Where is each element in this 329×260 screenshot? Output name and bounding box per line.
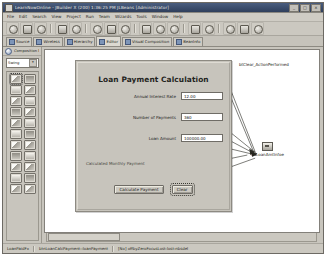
palette-group-dropdown[interactable]: Swing ▾ <box>6 58 39 68</box>
scrollbar-thumb[interactable] <box>48 233 120 241</box>
menu-item-help[interactable]: Help <box>173 13 183 21</box>
wireless-tab-icon <box>36 39 42 45</box>
debug-icon[interactable] <box>223 22 236 35</box>
jseparator-tool[interactable] <box>24 184 36 194</box>
save-icon[interactable] <box>34 22 47 35</box>
status-bar: LoanPaidFx btnLoanCalcPayment::loanPayme… <box>3 243 323 253</box>
menu-item-wizards[interactable]: Wizards <box>115 13 131 21</box>
menu-item-view[interactable]: View <box>52 13 62 21</box>
canvas-container: Loan Payment Calculation Annual Interest… <box>42 47 323 243</box>
loan-amount-event-label: fldLoanAmtInfoe <box>251 152 284 157</box>
editor-tab-icon <box>99 39 105 45</box>
jpanel-tool[interactable] <box>10 129 22 139</box>
number-of-payments-field[interactable]: 360 <box>181 113 223 121</box>
jlist-tool[interactable] <box>24 118 36 128</box>
jcheckbox-tool[interactable] <box>10 107 22 117</box>
jslider-tool[interactable] <box>10 173 22 183</box>
close-doc-icon[interactable] <box>69 22 82 35</box>
toolbar-separator <box>85 24 87 33</box>
minimize-button[interactable]: _ <box>289 4 299 12</box>
horizontal-scrollbar[interactable] <box>46 233 317 242</box>
tab-beaninfo[interactable]: Beanlnfo <box>173 37 203 46</box>
clear-button[interactable]: Clear <box>172 185 193 194</box>
menu-item-project[interactable]: Project <box>66 13 80 21</box>
tab-label: Wireless <box>43 38 59 46</box>
loan-amount-event-annotation[interactable]: fldLoanAmtInfoe <box>251 142 284 157</box>
open-icon[interactable] <box>20 22 33 35</box>
menu-item-team[interactable]: Team <box>99 13 110 21</box>
chevron-down-icon[interactable]: ▾ <box>29 59 37 67</box>
event-bean-icon <box>262 142 273 151</box>
hierarchy-tab-icon <box>67 39 73 45</box>
paste-icon[interactable] <box>153 22 166 35</box>
annual-interest-rate-label: Annual Interest Rate <box>134 94 176 99</box>
jspinner-tool[interactable] <box>10 184 22 194</box>
jtabbedpane-tool[interactable] <box>10 151 22 161</box>
tab-hierarchy[interactable]: Hierarchy <box>64 37 96 46</box>
jbutton-tool[interactable] <box>24 85 36 95</box>
toolbar-group-doc <box>55 22 82 35</box>
menu-item-edit[interactable]: Edit <box>19 13 27 21</box>
palette-row <box>8 129 37 139</box>
jtoolbar-tool[interactable] <box>10 162 22 172</box>
annual-interest-rate-field[interactable]: 12.00 <box>181 92 223 100</box>
tab-wireless[interactable]: Wireless <box>33 37 62 46</box>
redo-icon[interactable] <box>104 22 117 35</box>
jprogressbar-tool[interactable] <box>24 173 36 183</box>
menu-item-run[interactable]: Run <box>86 13 94 21</box>
jtextfield-tool[interactable] <box>10 96 22 106</box>
menu-item-search[interactable]: Search <box>32 13 46 21</box>
tab-source[interactable]: Source <box>6 37 32 46</box>
find-icon[interactable] <box>167 22 180 35</box>
build-icon[interactable] <box>188 22 201 35</box>
palette-row <box>8 85 37 95</box>
source-tab-icon <box>9 39 15 45</box>
close-button[interactable]: × <box>311 4 321 12</box>
toolbar-separator <box>50 24 52 33</box>
loan-amount-field[interactable]: 100000.00 <box>181 134 223 142</box>
status-separator <box>112 246 114 252</box>
loan-amount-label: Loan Amount <box>149 136 176 141</box>
menu-item-tools[interactable]: Tools <box>136 13 146 21</box>
clear-event-annotation[interactable]: btClear_ActionPerformed <box>239 62 289 67</box>
run-icon[interactable] <box>202 22 215 35</box>
maximize-button[interactable]: □ <box>300 4 310 12</box>
save-all-icon[interactable] <box>55 22 68 35</box>
menu-item-file[interactable]: File <box>7 13 14 21</box>
jtree-tool[interactable] <box>24 140 36 150</box>
form-button-row: Calculate Payment Clear <box>76 185 231 194</box>
tab-label: Source <box>16 38 29 46</box>
step-icon[interactable] <box>237 22 250 35</box>
toolbar-separator <box>134 24 136 33</box>
tab-editor[interactable]: Editor <box>96 36 121 46</box>
jtextarea-tool[interactable] <box>24 96 36 106</box>
jsplitpane-tool[interactable] <box>24 151 36 161</box>
tab-label: Visual Composition <box>132 38 169 46</box>
workspace: Composition Editor Swing ▾ <box>3 47 323 243</box>
selection-tool[interactable] <box>10 74 22 84</box>
undo-icon[interactable] <box>90 22 103 35</box>
jtable-tool[interactable] <box>10 140 22 150</box>
marquee-tool[interactable] <box>24 74 36 84</box>
menu-item-window[interactable]: Window <box>152 13 169 21</box>
toolbar-group-file <box>6 22 47 35</box>
design-canvas[interactable]: Loan Payment Calculation Annual Interest… <box>44 49 320 233</box>
tab-label: Editor <box>106 38 118 46</box>
jscrollpane-tool[interactable] <box>24 129 36 139</box>
new-icon[interactable] <box>6 22 19 35</box>
jmenubar-tool[interactable] <box>24 162 36 172</box>
window-controls: _ □ × <box>289 4 321 12</box>
jlabel-tool[interactable] <box>10 85 22 95</box>
app-icon <box>5 4 13 12</box>
designed-form[interactable]: Loan Payment Calculation Annual Interest… <box>75 60 232 212</box>
help-icon[interactable] <box>251 22 264 35</box>
jcombobox-tool[interactable] <box>10 118 22 128</box>
calculate-payment-button[interactable]: Calculate Payment <box>114 185 163 194</box>
tab-label: Hierarchy <box>74 38 93 46</box>
toolbar-group-build <box>188 22 215 35</box>
tab-visual-composition[interactable]: Visual Composition <box>122 37 172 46</box>
palette-row <box>8 96 37 106</box>
jradiobutton-tool[interactable] <box>24 107 36 117</box>
cut-icon[interactable] <box>118 22 131 35</box>
copy-icon[interactable] <box>139 22 152 35</box>
